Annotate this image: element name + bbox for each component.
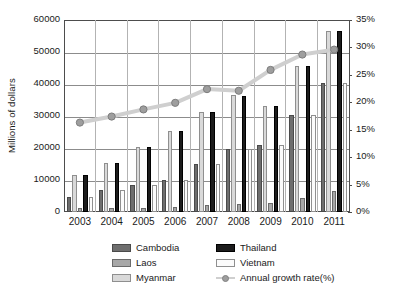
y-axis-tick-label: 50000	[16, 45, 60, 56]
bar-myanmar	[295, 66, 299, 212]
bar-myanmar	[326, 31, 330, 212]
y2-axis-tick-label: 0%	[356, 205, 392, 216]
bar-group	[286, 20, 318, 212]
x-axis-tick-label: 2004	[96, 216, 128, 232]
bar-thailand	[210, 112, 214, 212]
bar-laos	[109, 208, 113, 212]
bar-cambodia	[130, 185, 134, 212]
bar-myanmar	[104, 163, 108, 212]
legend-swatch-cambodia	[112, 244, 131, 252]
bar-thailand	[83, 175, 87, 212]
bar-cambodia	[99, 190, 103, 212]
x-axis-tick-label: 2003	[64, 216, 96, 232]
bar-laos	[205, 205, 209, 212]
bar-cambodia	[67, 197, 71, 212]
legend-swatch-thailand	[216, 244, 235, 252]
bar-laos	[300, 198, 304, 212]
y2-axis-tick	[348, 212, 352, 213]
bar-cambodia	[257, 145, 261, 212]
bar-myanmar	[136, 147, 140, 212]
x-axis-tick-label: 2007	[191, 216, 223, 232]
x-axis-tick-label: 2005	[128, 216, 160, 232]
bar-myanmar	[263, 106, 267, 212]
y2-axis-tick-label: 30%	[356, 40, 392, 51]
legend-swatch-vietnam	[216, 259, 235, 267]
legend-label: Annual growth rate(%)	[240, 272, 335, 283]
y-axis-tick-label: 30000	[16, 109, 60, 120]
legend-label: Laos	[136, 257, 157, 268]
bar-vietnam	[152, 185, 156, 212]
bars-layer	[64, 20, 350, 212]
bar-thailand	[242, 96, 246, 212]
legend-label: Myanmar	[136, 272, 176, 283]
y2-axis-tick-label: 25%	[356, 68, 392, 79]
bar-myanmar	[168, 131, 172, 212]
bar-myanmar	[199, 112, 203, 212]
bar-group	[255, 20, 287, 212]
legend-swatch-myanmar	[112, 274, 131, 282]
y-axis-tick-label: 10000	[16, 173, 60, 184]
y2-axis-tick-label: 15%	[356, 123, 392, 134]
legend-line-marker-icon	[216, 274, 235, 282]
y-axis-tick-label: 20000	[16, 141, 60, 152]
bar-vietnam	[248, 149, 252, 212]
bar-vietnam	[89, 197, 93, 212]
legend-item: Annual growth rate(%)	[216, 272, 362, 283]
bar-group	[96, 20, 128, 212]
bar-vietnam	[343, 83, 347, 212]
x-axis-tick-label: 2008	[223, 216, 255, 232]
y2-axis-tick-label: 5%	[356, 178, 392, 189]
x-axis-tick-label: 2010	[286, 216, 318, 232]
legend-item: Myanmar	[112, 272, 216, 283]
bar-laos	[237, 204, 241, 212]
chart-container: Millions of dollars 01000020000300004000…	[0, 0, 414, 292]
bar-laos	[141, 208, 145, 212]
y-axis-tick-label: 60000	[16, 13, 60, 24]
bar-thailand	[306, 66, 310, 212]
bar-laos	[173, 207, 177, 212]
bar-group	[159, 20, 191, 212]
bar-vietnam	[311, 115, 315, 212]
bar-myanmar	[72, 175, 76, 212]
x-axis-tick-label: 2006	[159, 216, 191, 232]
bar-thailand	[115, 163, 119, 212]
y2-axis-tick-label: 20%	[356, 95, 392, 106]
legend-label: Vietnam	[240, 257, 275, 268]
bar-myanmar	[231, 95, 235, 212]
bar-vietnam	[120, 190, 124, 212]
bar-vietnam	[279, 145, 283, 212]
bar-thailand	[179, 131, 183, 212]
y-axis-left-labels: 0100002000030000400005000060000	[14, 0, 60, 232]
bar-cambodia	[321, 83, 325, 212]
bar-cambodia	[289, 115, 293, 212]
bar-group	[128, 20, 160, 212]
bar-cambodia	[226, 149, 230, 212]
legend-label: Thailand	[240, 242, 276, 253]
bar-group	[223, 20, 255, 212]
legend-item: Thailand	[216, 242, 362, 253]
legend-item: Vietnam	[216, 257, 362, 268]
legend-label: Cambodia	[136, 242, 179, 253]
y-axis-tick-label: 0	[16, 205, 60, 216]
legend-item: Laos	[112, 257, 216, 268]
bar-group	[191, 20, 223, 212]
y-axis-tick-label: 40000	[16, 77, 60, 88]
y-axis-right-labels: 0%5%10%15%20%25%30%35%	[356, 0, 402, 232]
bar-thailand	[337, 31, 341, 212]
bar-group	[318, 20, 350, 212]
x-axis-tick-label: 2011	[318, 216, 350, 232]
bar-thailand	[147, 147, 151, 212]
bar-group	[64, 20, 96, 212]
chart-legend: CambodiaThailandLaosVietnamMyanmarAnnual…	[112, 240, 362, 286]
bar-vietnam	[184, 180, 188, 212]
bar-laos	[78, 208, 82, 212]
bar-vietnam	[216, 164, 220, 212]
x-axis-tick-label: 2009	[255, 216, 287, 232]
y2-axis-tick-label: 10%	[356, 150, 392, 161]
bar-cambodia	[194, 164, 198, 212]
legend-item: Cambodia	[112, 242, 216, 253]
bar-laos	[268, 203, 272, 212]
x-axis-labels: 200320042005200620072008200920102011	[64, 216, 350, 232]
bar-cambodia	[162, 180, 166, 212]
y2-axis-tick-label: 35%	[356, 13, 392, 24]
